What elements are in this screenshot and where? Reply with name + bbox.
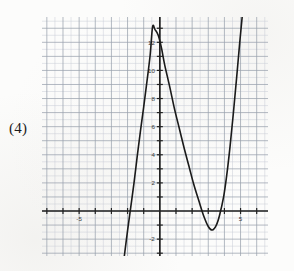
y-tick-label: 6: [151, 123, 155, 130]
cubic-graph-svg: -55-224681012: [42, 17, 268, 256]
y-tick-label: 4: [151, 151, 155, 158]
problem-number-label: (4): [9, 120, 27, 137]
x-tick-label: -5: [76, 215, 82, 222]
y-tick-label: 2: [151, 179, 155, 186]
y-tick-label: 8: [151, 95, 155, 102]
x-tick-label: 5: [239, 215, 243, 222]
graph-plot-area: -55-224681012: [42, 17, 268, 256]
y-tick-label: -2: [149, 235, 155, 242]
worksheet-page: (4) -55-224681012: [0, 0, 294, 271]
